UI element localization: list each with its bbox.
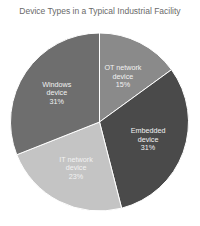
pie-chart: OT networkdevice15%Embeddeddevice31%IT n…	[0, 0, 200, 226]
